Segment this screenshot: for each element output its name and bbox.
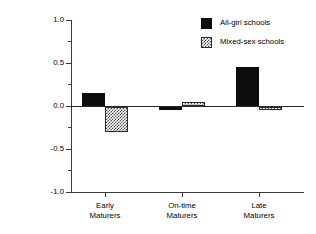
bar-late-mixed-sex [259, 107, 282, 110]
y-tick-label: -0.5 [51, 145, 64, 153]
bar-late-all-girl [236, 67, 259, 106]
x-group-label-early: Early Maturers [90, 201, 121, 221]
y-tick-major [66, 20, 71, 21]
y-tick-label: 0.5 [53, 59, 64, 67]
y-tick-label: -1.0 [51, 188, 64, 196]
y-tick-major [66, 149, 71, 150]
checkered-square-icon [201, 37, 212, 48]
y-tick-major [66, 63, 71, 64]
y-tick-minor [68, 127, 71, 128]
x-group-label-line2: Maturers [167, 211, 198, 221]
x-tick [105, 192, 106, 197]
solid-square-icon [201, 18, 212, 29]
x-group-label-line1: Late [244, 201, 275, 211]
y-tick-minor [68, 170, 71, 171]
x-group-label-line2: Maturers [244, 211, 275, 221]
x-group-label-line2: Maturers [90, 211, 121, 221]
bar-early-mixed-sex [105, 107, 128, 132]
x-group-label-line1: Early [90, 201, 121, 211]
legend-label: Mixed-sex schools [220, 38, 284, 46]
y-tick-minor [68, 84, 71, 85]
bar-ontime-mixed-sex [182, 102, 205, 106]
x-group-label-ontime: On-time Maturers [167, 201, 198, 221]
legend-label: All-girl schools [220, 19, 270, 27]
y-tick-major [66, 192, 71, 193]
y-tick-label: 1.0 [53, 16, 64, 24]
x-tick [182, 192, 183, 197]
bar-ontime-all-girl [159, 107, 182, 110]
y-tick-label: 0.0 [53, 102, 64, 110]
x-group-label-late: Late Maturers [244, 201, 275, 221]
y-tick-major [66, 106, 71, 107]
legend-item-all-girl-schools: All-girl schools [201, 16, 284, 30]
y-tick-minor [68, 41, 71, 42]
bar-early-all-girl [82, 93, 105, 106]
chart-legend: All-girl schools Mixed-sex schools [201, 16, 284, 54]
x-tick [259, 192, 260, 197]
chart-figure: Sixth Form Examination ( Z-scores ) 1.0 … [0, 0, 316, 234]
y-axis-title-line2: ( Z-scores ) [23, 0, 31, 34]
y-axis-title-line1: Sixth Form Examination [12, 0, 20, 34]
legend-item-mixed-sex-schools: Mixed-sex schools [201, 35, 284, 49]
x-group-label-line1: On-time [167, 201, 198, 211]
